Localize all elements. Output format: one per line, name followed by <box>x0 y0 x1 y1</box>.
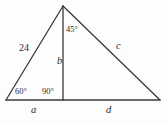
altitude-label-b: b <box>57 56 62 67</box>
base-label-d: d <box>106 105 111 116</box>
segment-right-side <box>63 6 160 100</box>
angle-label-60: 60° <box>15 87 27 96</box>
geometry-figure: 24 60° 90° 45° b c a d <box>0 0 168 124</box>
side-label-c: c <box>116 41 121 52</box>
angle-label-45: 45° <box>66 25 78 34</box>
side-length-label-24: 24 <box>19 43 29 53</box>
triangle-drawing <box>0 0 168 124</box>
angle-label-90: 90° <box>42 87 54 96</box>
base-label-a: a <box>31 105 36 116</box>
